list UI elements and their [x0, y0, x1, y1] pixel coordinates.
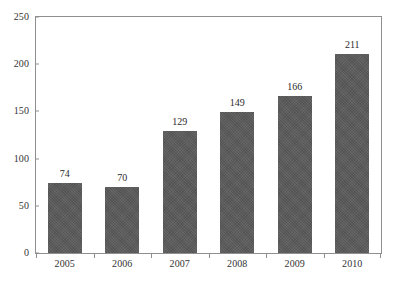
y-tick-label: 250 — [14, 12, 29, 22]
bar-value-label: 70 — [117, 173, 127, 183]
x-tick-mark — [266, 254, 267, 258]
bar[interactable] — [48, 183, 82, 253]
bar-slot: 74 — [36, 17, 94, 253]
x-tick-mark — [94, 254, 95, 258]
x-tick-mark — [380, 254, 381, 258]
bar[interactable] — [278, 96, 312, 253]
y-tick-label: 150 — [14, 106, 29, 116]
bar-value-label: 129 — [172, 117, 187, 127]
bar-chart: 050100150200250 7470129149166211 2005200… — [0, 0, 404, 285]
bar-slot: 166 — [266, 17, 324, 253]
x-tick-label: 2005 — [55, 259, 75, 269]
cut-off-caption — [4, 277, 304, 285]
bar-value-label: 74 — [60, 169, 70, 179]
bar-value-label: 166 — [287, 82, 302, 92]
x-tick-label: 2008 — [227, 259, 247, 269]
bar-value-label: 149 — [230, 98, 245, 108]
x-tick-label: 2009 — [285, 259, 305, 269]
x-tick-mark — [151, 254, 152, 258]
bar-slot: 129 — [151, 17, 209, 253]
bar[interactable] — [105, 187, 139, 253]
x-axis: 200520062007200820092010 — [36, 254, 381, 276]
bars-layer: 7470129149166211 — [36, 17, 381, 253]
x-tick-mark — [324, 254, 325, 258]
bar-slot: 149 — [209, 17, 267, 253]
bar[interactable] — [163, 131, 197, 253]
bar-value-label: 211 — [345, 40, 360, 50]
y-axis: 050100150200250 — [0, 16, 35, 254]
x-tick-mark — [36, 254, 37, 258]
bar-slot: 211 — [324, 17, 382, 253]
y-tick-label: 100 — [14, 154, 29, 164]
x-tick-mark — [209, 254, 210, 258]
y-tick-label: 0 — [24, 248, 29, 258]
bar[interactable] — [335, 54, 369, 253]
y-tick-label: 50 — [19, 201, 29, 211]
y-tick-label: 200 — [14, 59, 29, 69]
bar[interactable] — [220, 112, 254, 253]
bar-slot: 70 — [94, 17, 152, 253]
x-tick-label: 2006 — [112, 259, 132, 269]
x-tick-label: 2007 — [170, 259, 190, 269]
x-tick-label: 2010 — [342, 259, 362, 269]
